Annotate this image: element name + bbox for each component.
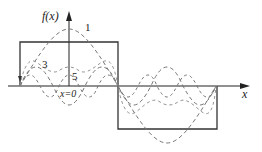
harmonic-5-label: 5 xyxy=(72,70,78,82)
y-axis-arrow-icon xyxy=(66,11,72,21)
origin-label: x=0 xyxy=(59,88,76,99)
harmonic-1-label: 1 xyxy=(85,21,91,33)
harmonic-3-label: 3 xyxy=(42,58,48,70)
y-axis-label: f(x) xyxy=(42,9,59,23)
fourier-square-wave-diagram: f(x) x 1 3 5 x=0 xyxy=(0,0,262,152)
x-axis-label: x xyxy=(241,87,248,101)
